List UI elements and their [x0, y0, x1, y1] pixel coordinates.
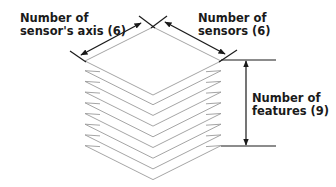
sensor-axis-label-line2: sensor's axis (6) [20, 25, 126, 38]
features-label: Number of features (9) [252, 92, 329, 118]
feature-layers [85, 27, 221, 180]
features-label-line2: features (9) [252, 105, 329, 118]
sensor-axis-label: Number of sensor's axis (6) [20, 12, 126, 38]
sensors-label: Number of sensors (6) [198, 12, 271, 38]
axis-extension-left [70, 51, 86, 62]
sensors-label-line2: sensors (6) [198, 25, 271, 38]
sensors-extension-top [151, 16, 167, 28]
